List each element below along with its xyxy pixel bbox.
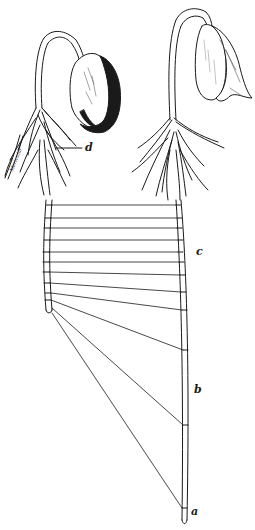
connector-lines (49, 205, 183, 508)
right-seedling (132, 9, 252, 200)
label-d: d (85, 142, 93, 153)
right-main-root (176, 200, 188, 524)
diagram-svg (0, 0, 255, 530)
seedling-growth-diagram: d c b a Mericular (0, 0, 255, 530)
left-seedling (5, 31, 120, 195)
left-main-root (43, 200, 52, 313)
label-c: c (196, 246, 203, 257)
label-b: b (194, 384, 202, 395)
label-a: a (191, 506, 198, 517)
